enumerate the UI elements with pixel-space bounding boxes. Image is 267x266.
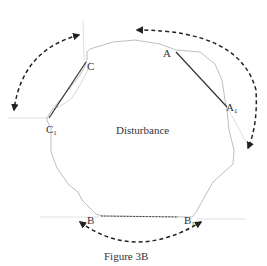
chord-c-c1 (49, 62, 86, 118)
point-label-c1: C1 (46, 123, 57, 137)
guide-lines (8, 20, 250, 219)
chord-b-b1 (101, 216, 178, 217)
rotation-arc-bottom (80, 222, 201, 242)
disturbance-label: Disturbance (116, 124, 169, 136)
point-label-a1: A1 (226, 101, 238, 115)
figure-caption: Figure 3B (104, 250, 148, 262)
point-label-b1: B1 (184, 214, 195, 228)
chord-a-a1 (176, 52, 227, 107)
point-label-b: B (87, 214, 94, 226)
rotation-arc-left (14, 35, 79, 110)
point-label-c: C (87, 60, 94, 72)
point-label-a: A (163, 47, 171, 59)
figure-3b-diagram: C C1 A A1 B B1 Disturbance Figure 3B (0, 0, 267, 266)
